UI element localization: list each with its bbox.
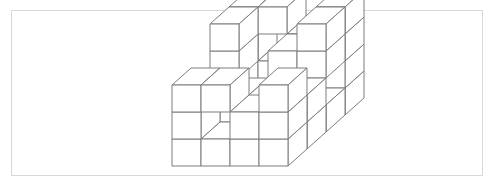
cube-face-front xyxy=(297,24,326,51)
cube-face-front xyxy=(230,112,259,139)
cube-face-front xyxy=(172,139,201,166)
cube-face-front xyxy=(201,85,230,112)
cube-face-front xyxy=(258,7,287,34)
cube-face-front xyxy=(172,112,201,139)
isometric-cube-figure xyxy=(0,0,496,190)
cube-face-front xyxy=(230,139,259,166)
cube-face-front xyxy=(210,24,239,51)
cube-face-front xyxy=(259,112,288,139)
cube-face-front xyxy=(259,85,288,112)
cube-group xyxy=(172,0,364,166)
cube-face-front xyxy=(259,139,288,166)
cube-face-front xyxy=(172,85,201,112)
cube-face-front xyxy=(201,139,230,166)
